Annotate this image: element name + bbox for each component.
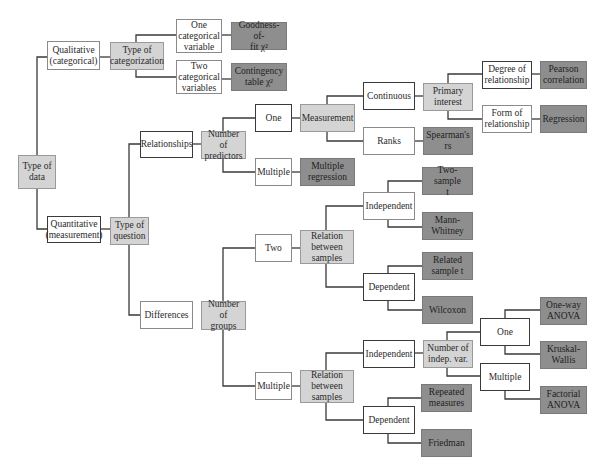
- node-qualitative: Qualitative (categorical): [47, 41, 100, 70]
- node-two-categorical-variables: Two categorical variables: [176, 60, 222, 94]
- node-two-independent: Independent: [363, 192, 415, 220]
- node-number-of-indep-var: Number of indep. var.: [423, 340, 473, 368]
- node-indep-multiple: Multiple: [480, 363, 530, 391]
- node-continuous: Continuous: [363, 82, 415, 110]
- node-groups-two: Two: [255, 234, 292, 262]
- node-form-of-relationship: Form of relationship: [482, 105, 532, 133]
- test-wilcoxon: Wilcoxon: [422, 296, 473, 324]
- statistical-test-decision-tree: Type of data Qualitative (categorical) T…: [0, 0, 602, 466]
- test-one-way-anova: One-way ANOVA: [540, 297, 587, 325]
- node-relationships: Relationships: [140, 131, 193, 158]
- node-one-categorical-variable: One categorical variable: [176, 19, 222, 53]
- node-type-of-question: Type of question: [110, 217, 149, 245]
- node-differences: Differences: [140, 301, 193, 329]
- node-ranks: Ranks: [363, 127, 415, 155]
- node-multi-independent: Independent: [363, 340, 415, 368]
- node-primary-interest: Primary interest: [423, 83, 473, 111]
- test-related-sample-t: Related sample t: [422, 252, 473, 280]
- node-predictors-one: One: [255, 104, 292, 132]
- test-kruskal-wallis: Kruskal- Wallis: [540, 341, 587, 369]
- node-quantitative: Quantitative (measurement): [47, 216, 101, 243]
- node-predictors-multiple: Multiple: [255, 158, 292, 186]
- test-repeated-measures: Repeated measures: [421, 384, 472, 412]
- node-type-of-data: Type of data: [18, 155, 56, 189]
- test-contingency-table: Contingency table χ²: [231, 63, 287, 91]
- node-number-of-groups: Number of groups: [201, 301, 246, 330]
- test-regression: Regression: [540, 105, 587, 133]
- node-relation-between-samples-two: Relation between samples: [300, 230, 354, 264]
- node-relation-between-samples-multiple: Relation between samples: [300, 370, 354, 403]
- node-indep-one: One: [480, 318, 530, 346]
- test-factorial-anova: Factorial ANOVA: [540, 386, 587, 414]
- node-two-dependent: Dependent: [363, 273, 415, 301]
- node-degree-of-relationship: Degree of relationship: [482, 61, 532, 89]
- node-type-of-categorization: Type of categorization: [110, 42, 164, 70]
- node-number-of-predictors: Number of predictors: [201, 131, 246, 159]
- node-groups-multiple: Multiple: [255, 372, 292, 400]
- test-multiple-regression: Multiple regression: [300, 158, 355, 186]
- node-multi-dependent: Dependent: [363, 406, 415, 434]
- test-mann-whitney: Mann- Whitney: [422, 212, 473, 240]
- test-friedman: Friedman: [421, 429, 472, 457]
- test-pearson-correlation: Pearson correlation: [540, 61, 587, 89]
- test-two-sample-t: Two-sample t: [422, 167, 473, 195]
- test-spearman: Spearman's rs: [423, 127, 473, 155]
- node-measurement: Measurement: [300, 104, 355, 132]
- test-goodness-of-fit: Goodness-of- fit χ²: [231, 22, 287, 50]
